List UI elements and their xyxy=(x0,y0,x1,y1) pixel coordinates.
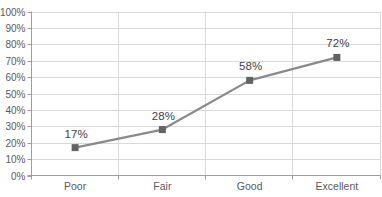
y-axis-tick-label: 60% xyxy=(5,72,25,83)
x-axis-category-label: Poor xyxy=(64,180,87,192)
x-axis-category-label: Good xyxy=(237,180,263,192)
y-axis-tick-label: 10% xyxy=(5,154,25,165)
data-point-marker xyxy=(159,126,166,133)
data-point-label: 28% xyxy=(152,110,175,122)
data-point-marker xyxy=(333,54,340,61)
satisfaction-line-chart: 0%10%20%30%40%50%60%70%80%90%100%PoorFai… xyxy=(0,0,382,197)
data-point-label: 17% xyxy=(65,128,88,140)
data-point-label: 72% xyxy=(326,37,349,49)
y-axis-tick-label: 100% xyxy=(0,7,26,18)
data-point-marker xyxy=(246,77,253,84)
y-axis-tick-label: 20% xyxy=(5,138,25,149)
y-axis-tick-label: 90% xyxy=(5,23,25,34)
data-point-marker xyxy=(72,144,79,151)
y-axis-tick-label: 50% xyxy=(5,89,25,100)
x-axis-category-label: Fair xyxy=(153,180,172,192)
y-axis-tick-label: 80% xyxy=(5,39,25,50)
x-axis-category-label: Excellent xyxy=(316,180,359,192)
data-point-label: 58% xyxy=(239,60,262,72)
plot-background xyxy=(0,0,382,197)
y-axis-tick-label: 30% xyxy=(5,121,25,132)
y-axis-tick-label: 0% xyxy=(11,171,26,182)
y-axis-tick-label: 70% xyxy=(5,56,25,67)
y-axis-tick-label: 40% xyxy=(5,105,25,116)
line-chart-canvas: 0%10%20%30%40%50%60%70%80%90%100%PoorFai… xyxy=(0,0,382,197)
